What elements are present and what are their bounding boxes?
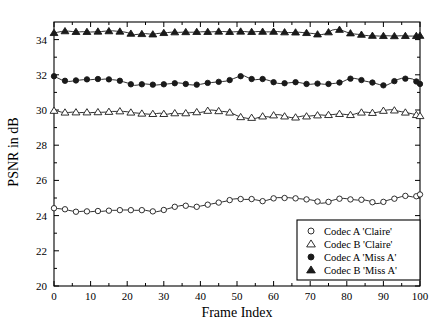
data-point <box>348 76 353 81</box>
data-point <box>161 207 166 212</box>
data-point <box>84 77 89 82</box>
data-point <box>227 77 232 82</box>
y-tick-label: 24 <box>36 210 48 222</box>
data-point <box>271 196 276 201</box>
x-tick-label: 90 <box>378 290 390 302</box>
data-point <box>348 197 353 202</box>
data-point <box>150 209 155 214</box>
legend-label: Codec A 'Miss A' <box>324 252 396 263</box>
y-tick-label: 34 <box>36 34 48 46</box>
data-point <box>282 81 287 86</box>
data-point <box>183 203 188 208</box>
data-point <box>183 81 188 86</box>
data-point <box>172 81 177 86</box>
data-point <box>95 76 100 81</box>
data-point <box>194 82 199 87</box>
data-point <box>249 196 254 201</box>
data-point <box>304 81 309 86</box>
data-point <box>73 209 78 214</box>
legend-label: Codec A 'Claire' <box>324 226 392 237</box>
data-point <box>293 196 298 201</box>
y-tick-label: 22 <box>36 245 47 257</box>
legend-label: Codec B 'Claire' <box>324 239 393 250</box>
data-point <box>337 196 342 201</box>
x-tick-label: 80 <box>341 290 353 302</box>
data-point <box>128 82 133 87</box>
x-tick-label: 40 <box>195 290 207 302</box>
data-point <box>238 74 243 79</box>
data-point <box>315 81 320 86</box>
data-point <box>326 199 331 204</box>
x-tick-label: 20 <box>122 290 134 302</box>
data-point <box>392 78 397 83</box>
data-point <box>271 79 276 84</box>
data-point <box>370 80 375 85</box>
data-point <box>139 207 144 212</box>
data-point <box>205 80 210 85</box>
data-point <box>308 228 314 234</box>
data-point <box>260 198 265 203</box>
data-point <box>51 74 56 79</box>
data-point <box>62 207 67 212</box>
data-point <box>84 209 89 214</box>
x-axis-title: Frame Index <box>201 305 272 320</box>
data-point <box>216 79 221 84</box>
data-point <box>73 78 78 83</box>
data-point <box>95 208 100 213</box>
y-tick-label: 26 <box>36 174 48 186</box>
data-point <box>51 206 56 211</box>
data-point <box>381 199 386 204</box>
data-point <box>150 82 155 87</box>
data-point <box>128 207 133 212</box>
data-point <box>370 200 375 205</box>
data-point <box>337 80 342 85</box>
data-point <box>227 197 232 202</box>
data-point <box>117 78 122 83</box>
data-point <box>381 83 386 88</box>
y-axis-title: PSNR in dB <box>6 117 21 186</box>
data-point <box>205 202 210 207</box>
data-point <box>359 197 364 202</box>
psnr-line-chart: 01020304050607080901002022242628303234 C… <box>0 0 437 323</box>
legend-label: Codec B 'Miss A' <box>324 265 397 276</box>
data-point <box>62 78 67 83</box>
y-tick-label: 20 <box>36 280 48 292</box>
data-point <box>417 81 422 86</box>
data-point <box>293 79 298 84</box>
figure-container: 01020304050607080901002022242628303234 C… <box>0 0 437 323</box>
data-point <box>238 196 243 201</box>
data-point <box>260 76 265 81</box>
x-tick-label: 10 <box>85 290 97 302</box>
data-point <box>359 77 364 82</box>
y-tick-label: 32 <box>36 69 47 81</box>
data-point <box>249 76 254 81</box>
data-point <box>172 204 177 209</box>
x-tick-label: 30 <box>158 290 170 302</box>
x-tick-label: 70 <box>305 290 317 302</box>
data-point <box>403 193 408 198</box>
x-tick-label: 50 <box>232 290 244 302</box>
data-point <box>117 207 122 212</box>
data-point <box>161 82 166 87</box>
x-tick-label: 60 <box>268 290 280 302</box>
data-point <box>315 199 320 204</box>
y-tick-label: 30 <box>36 104 48 116</box>
data-point <box>106 77 111 82</box>
data-point <box>326 81 331 86</box>
data-point <box>216 200 221 205</box>
chart-legend[interactable]: Codec A 'Claire'Codec B 'Claire'Codec A … <box>297 220 420 280</box>
data-point <box>139 82 144 87</box>
data-point <box>282 195 287 200</box>
data-point <box>106 208 111 213</box>
data-point <box>417 192 422 197</box>
y-tick-label: 28 <box>36 139 48 151</box>
data-point <box>308 254 314 260</box>
data-point <box>304 197 309 202</box>
data-point <box>194 204 199 209</box>
data-point <box>392 196 397 201</box>
x-tick-label: 100 <box>412 290 429 302</box>
data-point <box>403 76 408 81</box>
x-tick-label: 0 <box>51 290 57 302</box>
